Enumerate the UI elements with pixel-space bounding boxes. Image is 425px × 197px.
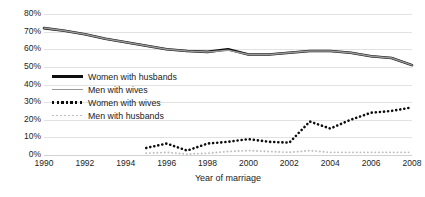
y-tick-label: 20% <box>1 115 41 124</box>
series-line <box>44 28 412 65</box>
legend-line-sample <box>52 115 83 117</box>
legend-swatch-icon <box>52 85 83 94</box>
y-tick-label: 50% <box>1 62 41 71</box>
legend-item: Men with husbands <box>52 109 202 122</box>
series-line <box>44 28 412 65</box>
legend-swatch-icon <box>52 98 83 107</box>
x-tick-label: 1998 <box>198 158 217 168</box>
legend-item: Women with husbands <box>52 70 202 83</box>
y-tick-label: 70% <box>1 27 41 36</box>
y-axis: 80%70%60%50%40%30%20%10%0% <box>0 14 41 155</box>
y-tick-label: 10% <box>1 132 41 141</box>
chart-legend: Women with husbandsMen with wivesWomen w… <box>52 70 202 122</box>
x-tick-label: 1994 <box>116 158 135 168</box>
x-tick-label: 1990 <box>35 158 54 168</box>
legend-label: Women with wives <box>88 98 161 108</box>
x-tick-label: 1992 <box>75 158 94 168</box>
legend-label: Men with wives <box>88 85 148 95</box>
x-tick-label: 2004 <box>321 158 340 168</box>
y-tick-label: 30% <box>1 97 41 106</box>
legend-line-sample <box>52 75 83 78</box>
x-tick-label: 1996 <box>157 158 176 168</box>
y-tick-label: 60% <box>1 44 41 53</box>
x-tick-label: 2008 <box>403 158 422 168</box>
line-chart: 80%70%60%50%40%30%20%10%0% Women with hu… <box>0 0 425 197</box>
x-tick-label: 2002 <box>280 158 299 168</box>
x-axis-title: Year of marriage <box>44 173 412 184</box>
x-tick-label: 2006 <box>362 158 381 168</box>
legend-swatch-icon <box>52 72 83 81</box>
gridline <box>44 155 412 156</box>
y-tick-label: 40% <box>1 80 41 89</box>
legend-label: Men with husbands <box>88 111 164 121</box>
x-axis: 1990199219941996199820002002200420062008 <box>44 158 412 172</box>
y-tick-label: 80% <box>1 9 41 18</box>
legend-line-sample <box>52 89 83 91</box>
legend-label: Women with husbands <box>88 72 177 82</box>
legend-item: Men with wives <box>52 83 202 96</box>
legend-item: Women with wives <box>52 96 202 109</box>
legend-swatch-icon <box>52 111 83 120</box>
legend-line-sample <box>52 101 83 103</box>
x-tick-label: 2000 <box>239 158 258 168</box>
